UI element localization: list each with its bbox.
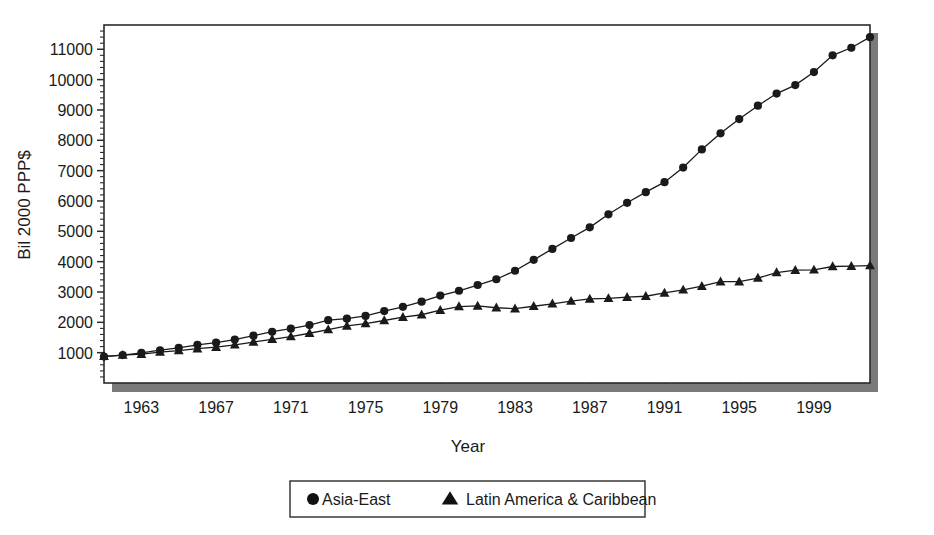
y-tick-label: 3000 xyxy=(57,284,93,301)
data-point xyxy=(829,51,837,59)
data-point xyxy=(604,210,612,218)
x-tick-label: 1983 xyxy=(497,399,533,416)
y-tick-label: 7000 xyxy=(57,163,93,180)
data-point xyxy=(586,223,594,231)
y-tick-label: 4000 xyxy=(57,254,93,271)
data-point xyxy=(791,81,799,89)
y-tick-label: 8000 xyxy=(57,132,93,149)
data-point xyxy=(474,281,482,289)
data-point xyxy=(660,178,668,186)
y-tick-label: 6000 xyxy=(57,193,93,210)
data-point xyxy=(380,307,388,315)
data-point xyxy=(418,298,426,306)
data-point xyxy=(324,316,332,324)
x-axis-tick-labels: 1963196719711975197919831987199119951999 xyxy=(124,399,832,416)
chart-legend: Asia-EastLatin America & Caribbean xyxy=(290,481,656,517)
x-tick-label: 1963 xyxy=(124,399,160,416)
x-tick-label: 1991 xyxy=(647,399,683,416)
line-chart: 1000200030004000500060007000800090001000… xyxy=(0,0,934,535)
data-point xyxy=(623,199,631,207)
x-tick-label: 1967 xyxy=(198,399,234,416)
data-point xyxy=(399,303,407,311)
data-point xyxy=(866,33,874,41)
legend-marker-circle-icon xyxy=(307,493,319,505)
y-tick-label: 1000 xyxy=(57,345,93,362)
data-point xyxy=(716,129,724,137)
data-point xyxy=(754,102,762,110)
legend-label-1: Asia-East xyxy=(322,491,391,508)
x-axis-title: Year xyxy=(451,437,486,456)
axis-shadow xyxy=(112,384,878,392)
data-point xyxy=(679,163,687,171)
data-point xyxy=(305,321,313,329)
y-tick-label: 9000 xyxy=(57,102,93,119)
x-tick-label: 1999 xyxy=(796,399,832,416)
y-tick-label: 5000 xyxy=(57,223,93,240)
legend-label-2: Latin America & Caribbean xyxy=(466,491,656,508)
x-tick-label: 1971 xyxy=(273,399,309,416)
data-point xyxy=(847,44,855,52)
data-point xyxy=(642,188,650,196)
y-tick-label: 11000 xyxy=(50,41,93,58)
data-point xyxy=(436,292,444,300)
x-tick-label: 1979 xyxy=(422,399,458,416)
data-point xyxy=(492,275,500,283)
x-tick-label: 1987 xyxy=(572,399,608,416)
chart-container: 1000200030004000500060007000800090001000… xyxy=(0,0,934,535)
x-tick-label: 1995 xyxy=(721,399,757,416)
data-point xyxy=(530,256,538,264)
data-point xyxy=(511,267,519,275)
y-axis-major-ticks xyxy=(97,49,104,352)
data-point xyxy=(548,245,556,253)
data-point xyxy=(455,287,463,295)
y-tick-label: 2000 xyxy=(57,314,93,331)
y-axis-title: Bil 2000 PPP$ xyxy=(15,150,34,260)
data-point xyxy=(735,115,743,123)
data-point xyxy=(810,68,818,76)
plot-area xyxy=(104,25,870,383)
y-tick-label: 10000 xyxy=(49,72,94,89)
x-tick-label: 1975 xyxy=(348,399,384,416)
data-point xyxy=(698,145,706,153)
y-axis-tick-labels: 1000200030004000500060007000800090001000… xyxy=(49,41,94,361)
data-point xyxy=(772,89,780,97)
data-point xyxy=(567,234,575,242)
